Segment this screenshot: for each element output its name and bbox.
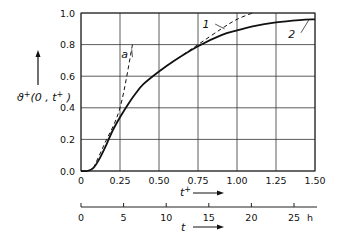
arrow-head-icon — [36, 50, 41, 57]
secondary-tick-label: 10 — [160, 212, 172, 223]
grid — [81, 13, 315, 171]
curve-label-a: a — [121, 48, 128, 61]
curve-label-2: 2 — [288, 28, 295, 41]
x-tick-label: 0.25 — [109, 175, 130, 186]
svg-text:t: t — [181, 221, 186, 234]
unit-label: h — [307, 212, 313, 223]
secondary-tick-label: 0 — [78, 212, 84, 223]
curve-labels: a12 — [121, 18, 308, 61]
secondary-tick-label: 20 — [245, 212, 257, 223]
y-tick-label: 0.8 — [60, 39, 75, 50]
leader-line — [301, 20, 309, 33]
secondary-tick-label: 25 — [288, 212, 300, 223]
y-tick-label: 0.2 — [60, 134, 75, 145]
x-tick-label: 0 — [78, 175, 84, 186]
chart: 00.250.500.751.001.251.500.00.20.40.60.8… — [0, 0, 346, 243]
secondary-tick-label: 15 — [203, 212, 215, 223]
leader-line — [132, 49, 133, 57]
secondary-tick-label: 5 — [121, 212, 127, 223]
curve-label-1: 1 — [202, 18, 209, 31]
y-tick-label: 1.0 — [60, 8, 75, 19]
x-tick-label: 0.50 — [148, 175, 169, 186]
leader-line — [215, 24, 224, 29]
arrow-head-icon — [217, 225, 224, 230]
arrow-head-icon — [217, 191, 224, 196]
svg-text:ϑ+(0 , t+ ): ϑ+(0 , t+ ) — [17, 90, 71, 104]
x-axis-label: t+ — [180, 185, 224, 199]
secondary-time-axis: 0510152025h — [78, 203, 317, 223]
svg-text:t+: t+ — [180, 185, 191, 199]
x-tick-label: 1.00 — [226, 175, 247, 186]
x-tick-label: 1.25 — [265, 175, 286, 186]
y-tick-label: 0.6 — [60, 71, 75, 82]
x-tick-label: 1.50 — [304, 175, 325, 186]
y-tick-label: 0.0 — [60, 166, 75, 177]
